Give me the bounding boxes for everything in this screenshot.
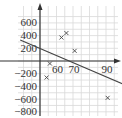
y-tick-label: −400 — [14, 80, 37, 92]
y-tick-labels: 600400200−200−400−600−800 — [14, 16, 37, 117]
x-marker-icon — [59, 36, 63, 40]
y-tick-label: 400 — [21, 29, 38, 41]
x-tick-label: 60 — [52, 63, 64, 75]
x-axis-arrow-icon — [114, 59, 121, 64]
y-tick-label: −600 — [14, 93, 37, 105]
y-axis-arrow-icon — [38, 3, 43, 10]
y-tick-label: −200 — [14, 67, 37, 79]
y-tick-label: 600 — [21, 16, 38, 28]
y-tick-label: −800 — [14, 105, 37, 117]
x-tick-label: 90 — [102, 63, 114, 75]
x-tick-labels: 607090 — [52, 63, 113, 75]
scatter-chart: 600400200−200−400−600−800 607090 — [0, 0, 122, 118]
